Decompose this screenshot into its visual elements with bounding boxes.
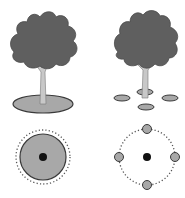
right-top-view <box>115 125 180 190</box>
left-top-view <box>16 130 70 184</box>
spot-top-south <box>143 181 152 190</box>
canopy-right <box>114 11 177 69</box>
spot-top-west <box>115 153 124 162</box>
right-side-view <box>114 11 178 110</box>
spot-side-left <box>114 95 130 101</box>
left-side-view <box>11 12 77 113</box>
canopy-left <box>11 12 77 69</box>
trunk-dot-right <box>143 153 151 161</box>
trunk-dot-left <box>39 153 47 161</box>
spot-top-east <box>171 153 180 162</box>
spot-side-right <box>162 95 178 101</box>
diagram <box>0 0 185 198</box>
spot-side-front <box>138 104 154 110</box>
spot-top-north <box>143 125 152 134</box>
